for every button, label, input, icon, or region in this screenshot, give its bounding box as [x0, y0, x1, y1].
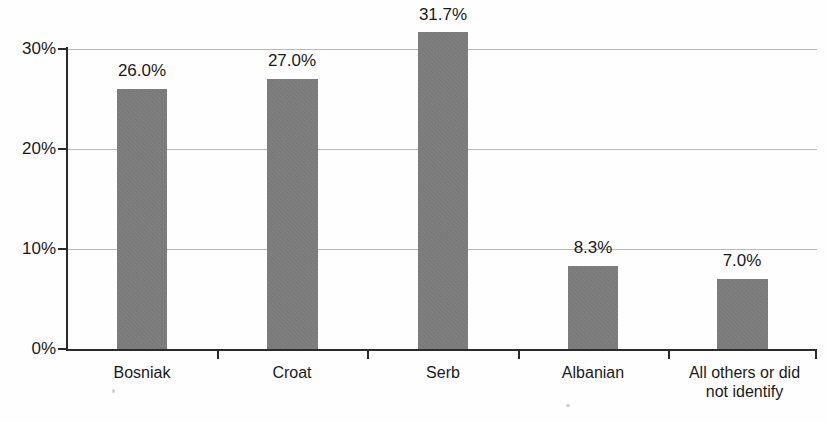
x-tick-1 [217, 350, 219, 359]
bar-value-serb: 31.7% [383, 6, 503, 24]
plot-area: 30% 20% 10% 0% 26.0% 27.0% 31.7% 8.3% 7.… [0, 0, 827, 422]
category-label-all-others-line2: not identify [672, 382, 817, 401]
category-label-serb-line1: Serb [426, 364, 460, 381]
category-label-bosniak: Bosniak [82, 363, 202, 382]
category-label-bosniak-line1: Bosniak [114, 364, 171, 381]
bar-value-all-others: 7.0% [682, 252, 802, 270]
x-tick-3 [518, 350, 520, 359]
x-tick-2 [367, 350, 369, 359]
y-axis-label-10: 10% [4, 240, 56, 257]
bar-chart: 30% 20% 10% 0% 26.0% 27.0% 31.7% 8.3% 7.… [0, 0, 827, 422]
bar-croat [267, 79, 318, 349]
category-label-croat: Croat [232, 363, 352, 382]
category-label-all-others-line1: All others or did [689, 364, 800, 381]
y-tick-30 [58, 48, 66, 50]
category-label-serb: Serb [383, 363, 503, 382]
scan-speck [112, 389, 115, 393]
bar-all-others [717, 279, 768, 349]
y-axis-label-0: 0% [4, 340, 56, 357]
y-tick-10 [58, 248, 66, 250]
category-label-all-others: All others or did not identify [672, 363, 817, 401]
y-tick-0 [58, 348, 66, 350]
category-label-croat-line1: Croat [272, 364, 311, 381]
y-axis-label-30: 30% [4, 40, 56, 57]
x-tick-4 [668, 350, 670, 359]
x-tick-5 [815, 350, 817, 359]
bar-bosniak [117, 89, 167, 349]
bar-value-bosniak: 26.0% [82, 62, 202, 80]
y-axis-label-20: 20% [4, 140, 56, 157]
y-tick-20 [58, 148, 66, 150]
bar-albanian [568, 266, 618, 349]
bar-value-croat: 27.0% [232, 52, 352, 70]
x-axis-line [66, 349, 817, 351]
bar-value-albanian: 8.3% [533, 239, 653, 257]
category-label-albanian-line1: Albanian [562, 364, 624, 381]
bar-serb [418, 32, 468, 349]
category-label-albanian: Albanian [533, 363, 653, 382]
y-axis-line [66, 47, 68, 351]
scan-speck [566, 404, 570, 407]
